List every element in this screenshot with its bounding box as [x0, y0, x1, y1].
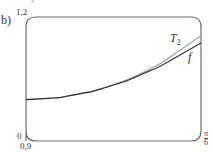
chart-plot [0, 0, 213, 152]
series-t2-line [26, 43, 201, 100]
t2-label-sub: 2 [177, 38, 181, 47]
f-series-label: f [188, 50, 191, 65]
t2-series-label: T2 [170, 31, 181, 47]
t2-label-text: T [170, 31, 177, 45]
